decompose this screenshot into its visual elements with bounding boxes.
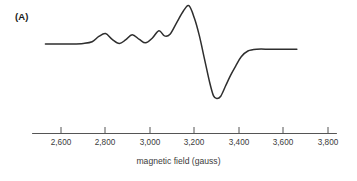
x-axis-tick-label-3600: 3,600 bbox=[273, 139, 294, 147]
x-axis-tick-label-3400: 3,400 bbox=[229, 139, 250, 147]
epr-spectrum-figure: (A) 2,6002,8003,0003,2003,4003,6003,800 … bbox=[0, 0, 357, 181]
spectrum-plot bbox=[0, 0, 357, 181]
x-axis-tick-marks bbox=[61, 127, 328, 134]
x-axis-tick-label-2600: 2,600 bbox=[51, 139, 72, 147]
x-axis-tick-label-3200: 3,200 bbox=[184, 139, 205, 147]
spectrum-curve bbox=[45, 5, 296, 98]
x-axis-tick-label-3000: 3,000 bbox=[140, 139, 161, 147]
x-axis-tick-label-3800: 3,800 bbox=[318, 139, 339, 147]
x-axis-title: magnetic field (gauss) bbox=[0, 157, 357, 166]
x-axis-tick-label-2800: 2,800 bbox=[95, 139, 116, 147]
